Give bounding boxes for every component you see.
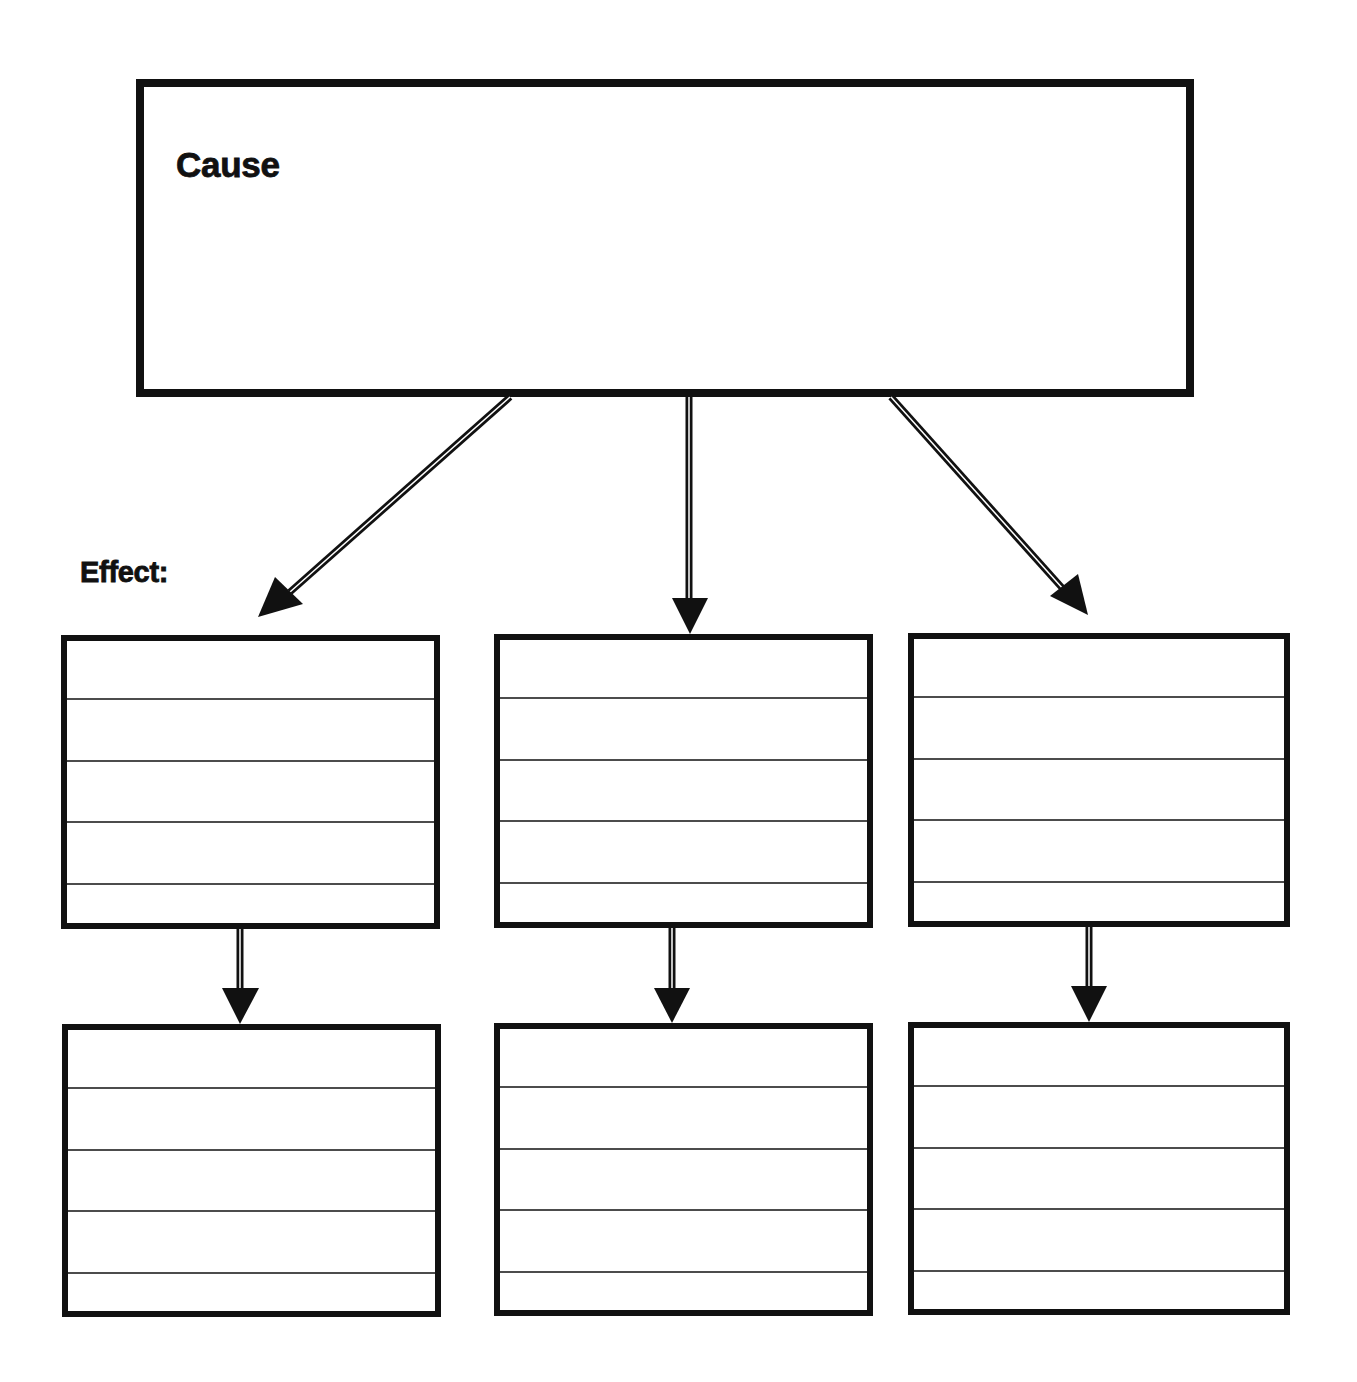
- effect-box-2[interactable]: [497, 637, 870, 925]
- arrow-effect-1-down: [222, 929, 259, 1024]
- effect-box-1[interactable]: [64, 638, 437, 926]
- effect-box-3[interactable]: [911, 636, 1287, 924]
- arrow-cause-to-effect-2: [672, 397, 708, 634]
- arrow-cause-to-effect-1: [258, 397, 510, 617]
- effect-label: Effect:: [80, 556, 168, 589]
- cause-label: Cause: [176, 145, 280, 185]
- followup-box-3[interactable]: [911, 1025, 1287, 1312]
- diagram-canvas: [0, 0, 1357, 1382]
- followup-box-2[interactable]: [497, 1026, 870, 1313]
- followup-box-1[interactable]: [65, 1027, 438, 1314]
- arrow-effect-2-down: [654, 928, 690, 1023]
- arrow-effect-3-down: [1071, 927, 1107, 1022]
- arrow-cause-to-effect-3: [891, 397, 1088, 615]
- cause-box[interactable]: [140, 83, 1190, 393]
